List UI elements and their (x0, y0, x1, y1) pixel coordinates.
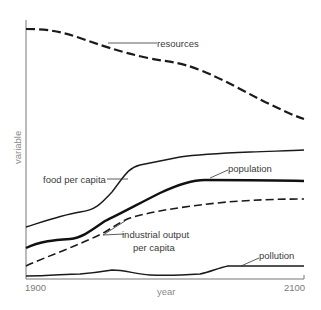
label-industrial-line2: per capita (133, 242, 175, 253)
world-model-chart: resources food per capita population ind… (0, 0, 321, 310)
label-population: population (228, 163, 272, 174)
leader-pollution (241, 258, 259, 266)
x-axis-label: year (157, 286, 175, 297)
series-food-per-capita (26, 150, 304, 227)
series-pollution (26, 266, 304, 276)
x-tick-2100: 2100 (284, 282, 305, 293)
label-pollution: pollution (259, 250, 294, 261)
leader-population (210, 170, 228, 178)
y-axis-label: variable (12, 131, 23, 164)
leader-industrial (103, 234, 124, 235)
label-industrial-line1: industrial output (122, 229, 189, 240)
x-tick-1900: 1900 (25, 282, 46, 293)
label-food-per-capita: food per capita (43, 174, 107, 185)
label-resources: resources (157, 38, 199, 49)
